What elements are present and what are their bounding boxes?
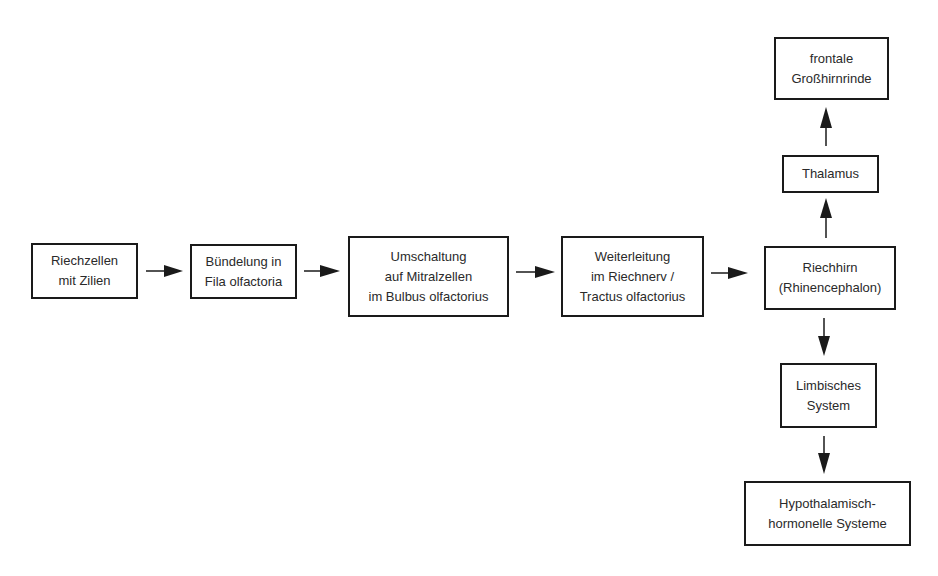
arrow-weiterleitung-to-riechhirn <box>711 267 748 279</box>
node-buendelung-line1: Bündelung in <box>206 252 282 272</box>
node-umschaltung-line1: Umschaltung <box>391 247 467 267</box>
node-riechhirn-line2: (Rhinencephalon) <box>779 278 882 298</box>
node-hypothalamisch-line2: hormonelle Systeme <box>768 514 887 534</box>
node-weiterleitung-line1: Weiterleitung <box>595 247 671 267</box>
node-limbisch: Limbisches System <box>780 363 877 428</box>
node-umschaltung-line3: im Bulbus olfactorius <box>369 287 489 307</box>
node-limbisch-line2: System <box>807 396 850 416</box>
node-weiterleitung: Weiterleitung im Riechnerv / Tractus olf… <box>561 236 704 317</box>
node-grosshirnrinde-line2: Großhirnrinde <box>791 69 871 89</box>
node-thalamus-line1: Thalamus <box>802 164 859 184</box>
node-weiterleitung-line2: im Riechnerv / <box>591 267 674 287</box>
node-umschaltung-line2: auf Mitralzellen <box>385 267 472 287</box>
node-weiterleitung-line3: Tractus olfactorius <box>580 287 686 307</box>
node-limbisch-line1: Limbisches <box>796 376 861 396</box>
node-riechhirn: Riechhirn (Rhinencephalon) <box>764 246 896 310</box>
node-hypothalamisch-line1: Hypothalamisch- <box>779 494 876 514</box>
arrow-thalamus-to-grosshirnrinde <box>820 107 832 146</box>
arrow-riechhirn-to-thalamus <box>820 198 832 238</box>
node-umschaltung: Umschaltung auf Mitralzellen im Bulbus o… <box>348 236 509 317</box>
node-grosshirnrinde: frontale Großhirnrinde <box>774 37 889 100</box>
node-buendelung-line2: Fila olfactoria <box>205 272 282 292</box>
node-hypothalamisch: Hypothalamisch- hormonelle Systeme <box>744 481 911 546</box>
node-buendelung: Bündelung in Fila olfactoria <box>190 244 297 299</box>
node-riechzellen: Riechzellen mit Zilien <box>31 243 138 299</box>
node-riechzellen-line2: mit Zilien <box>58 271 110 291</box>
arrow-umschaltung-to-weiterleitung <box>516 266 555 278</box>
node-riechzellen-line1: Riechzellen <box>51 251 118 271</box>
node-grosshirnrinde-line1: frontale <box>810 49 853 69</box>
node-thalamus: Thalamus <box>782 155 879 193</box>
node-riechhirn-line1: Riechhirn <box>803 258 858 278</box>
arrow-limbisch-to-hypothalamisch <box>818 436 830 474</box>
arrow-buendelung-to-umschaltung <box>304 265 340 277</box>
arrow-riechhirn-to-limbisch <box>818 318 830 356</box>
arrow-riechzellen-to-buendelung <box>146 265 183 277</box>
olfactory-pathway-diagram: Riechzellen mit Zilien Bündelung in Fila… <box>0 0 938 576</box>
